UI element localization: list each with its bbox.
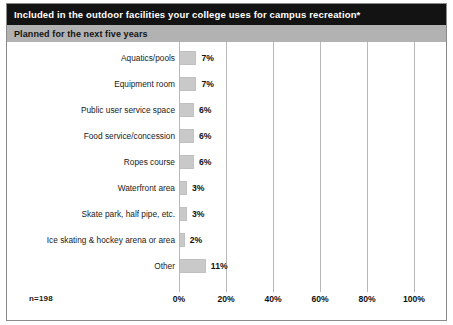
chart-subtitle: Planned for the next five years [14, 29, 148, 39]
bar-row: Food service/concession6% [7, 123, 446, 149]
bar-value-label: 6% [199, 149, 211, 175]
x-tick-label: 100% [403, 294, 425, 304]
bar-value-label: 3% [192, 175, 204, 201]
bar-value-label: 7% [201, 45, 213, 71]
bar [180, 51, 196, 65]
bar-row: Skate park, half pipe, etc.3% [7, 201, 446, 227]
bar-row: Equipment room7% [7, 71, 446, 97]
category-label: Food service/concession [84, 123, 179, 149]
category-label: Skate park, half pipe, etc. [81, 201, 179, 227]
category-label: Public user service space [81, 97, 179, 123]
x-tick-label: 40% [264, 294, 281, 304]
plot-area: Aquatics/pools7%Equipment room7%Public u… [7, 42, 446, 320]
bar-row: Ropes course6% [7, 149, 446, 175]
bar [180, 181, 187, 195]
bar-value-label: 7% [201, 71, 213, 97]
bar [180, 259, 206, 273]
x-tick-label: 0% [173, 294, 185, 304]
bar-row: Waterfront area3% [7, 175, 446, 201]
bar [180, 155, 194, 169]
sample-size-note: n=198 [29, 294, 53, 303]
x-tick-label: 80% [358, 294, 375, 304]
page-title: Included in the outdoor facilities your … [14, 9, 360, 20]
chart-figure: Included in the outdoor facilities your … [6, 3, 447, 321]
chart-title-bar: Included in the outdoor facilities your … [7, 4, 446, 25]
bar [180, 77, 196, 91]
bar [180, 103, 194, 117]
x-tick-label: 20% [217, 294, 234, 304]
bar-row: Public user service space6% [7, 97, 446, 123]
bar [180, 233, 185, 247]
category-label: Aquatics/pools [121, 45, 179, 71]
bar [180, 207, 187, 221]
x-tick-label: 60% [311, 294, 328, 304]
bar-value-label: 3% [192, 201, 204, 227]
bar-row: Ice skating & hockey arena or area2% [7, 227, 446, 253]
x-axis-tick-labels: 0%20%40%60%80%100% [7, 294, 446, 310]
category-label: Equipment room [114, 71, 179, 97]
bar-value-label: 6% [199, 97, 211, 123]
category-label: Ropes course [124, 149, 179, 175]
bars-group: Aquatics/pools7%Equipment room7%Public u… [7, 42, 446, 292]
bar-value-label: 2% [190, 227, 202, 253]
chart-subtitle-bar: Planned for the next five years [7, 25, 446, 42]
bar-row: Other11% [7, 253, 446, 279]
category-label: Other [154, 253, 179, 279]
category-label: Ice skating & hockey arena or area [47, 227, 179, 253]
bar-value-label: 6% [199, 123, 211, 149]
bar [180, 129, 194, 143]
bar-value-label: 11% [211, 253, 228, 279]
category-label: Waterfront area [118, 175, 179, 201]
bar-row: Aquatics/pools7% [7, 45, 446, 71]
